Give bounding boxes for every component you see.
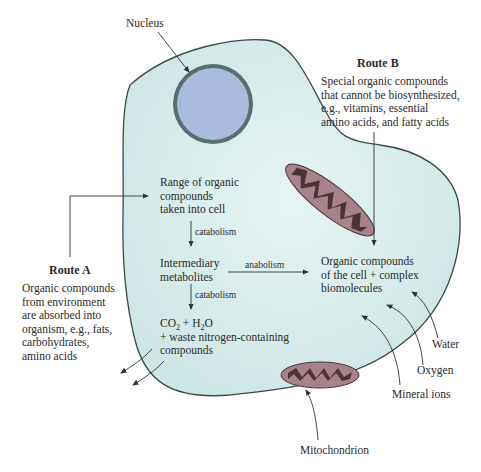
catabolism-label-1: catabolism xyxy=(195,227,236,238)
intake-line: compounds xyxy=(160,190,239,204)
organic-cell-node: Organic compounds of the cell + complex … xyxy=(321,255,419,296)
mitochondrion-label: Mitochondrion xyxy=(300,444,369,458)
intermediary-line: Intermediary xyxy=(160,257,219,271)
h2o-text: + H xyxy=(180,317,201,329)
intermediary-node: Intermediary metabolites xyxy=(160,257,219,284)
intake-node: Range of organic compounds taken into ce… xyxy=(160,176,239,217)
route-a-line: are absorbed into xyxy=(22,309,115,323)
route-a-line: organism, e.g., fats, xyxy=(22,323,115,337)
products-line: compounds xyxy=(160,344,289,358)
mitochondrion-lower xyxy=(281,362,359,388)
intermediary-line: metabolites xyxy=(160,271,219,285)
organic-cell-line: biomolecules xyxy=(321,282,419,296)
mineral-ions-label: Mineral ions xyxy=(392,388,450,402)
o-text: O xyxy=(205,317,213,329)
intake-line: Range of organic xyxy=(160,176,239,190)
products-node: CO2 + H2O + waste nitrogen-containing co… xyxy=(160,317,289,358)
route-a-line: Organic compounds xyxy=(22,282,115,296)
mitochondrion-pointer-arrow xyxy=(306,390,318,440)
co2-text: CO xyxy=(160,317,176,329)
route-a-line: from environment xyxy=(22,296,115,310)
route-b-line: that cannot be biosynthesized, xyxy=(321,89,460,103)
oxygen-label: Oxygen xyxy=(417,364,453,378)
route-b-description: Special organic compounds that cannot be… xyxy=(321,75,460,129)
products-line: + waste nitrogen-containing xyxy=(160,331,289,345)
co2-h2o-line: CO2 + H2O xyxy=(160,317,289,331)
intake-line: taken into cell xyxy=(160,203,239,217)
organic-cell-line: of the cell + complex xyxy=(321,269,419,283)
route-a-description: Organic compounds from environment are a… xyxy=(22,282,115,363)
route-b-line: e.g., vitamins, essential xyxy=(321,102,460,116)
route-a-line: carbohydrates, xyxy=(22,336,115,350)
water-label: Water xyxy=(432,338,459,352)
route-b-line: amino acids, and fatty acids xyxy=(321,116,460,130)
metabolism-cell-diagram: Nucleus Route B Special organic compound… xyxy=(0,0,481,472)
route-a-line: amino acids xyxy=(22,350,115,364)
anabolism-label: anabolism xyxy=(245,260,284,271)
nucleus-label: Nucleus xyxy=(126,17,164,31)
catabolism-label-2: catabolism xyxy=(195,290,236,301)
organic-cell-line: Organic compounds xyxy=(321,255,419,269)
route-b-title: Route B xyxy=(357,57,399,71)
route-b-line: Special organic compounds xyxy=(321,75,460,89)
nucleus xyxy=(173,64,253,144)
route-a-title: Route A xyxy=(49,264,91,278)
